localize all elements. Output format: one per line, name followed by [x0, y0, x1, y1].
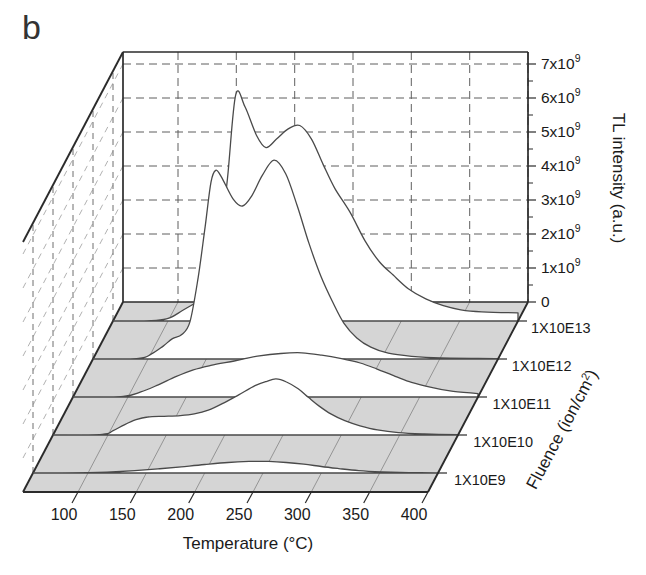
svg-text:1x109: 1x109 — [541, 256, 581, 276]
svg-text:4x109: 4x109 — [541, 154, 581, 174]
svg-text:200: 200 — [167, 506, 194, 523]
svg-text:1X10E10: 1X10E10 — [473, 434, 533, 450]
svg-text:7x109: 7x109 — [541, 52, 581, 72]
svg-text:150: 150 — [109, 506, 136, 523]
svg-text:3x109: 3x109 — [541, 188, 581, 208]
svg-text:0: 0 — [541, 293, 550, 310]
z-axis-title: TL intensity (a.u.) — [608, 113, 628, 244]
svg-text:1X10E11: 1X10E11 — [493, 396, 552, 412]
svg-text:300: 300 — [284, 506, 311, 523]
svg-text:100: 100 — [51, 506, 78, 523]
waterfall-figure: 10015020025030035040001x1092x1093x1094x1… — [0, 0, 646, 575]
y-axis-title: Fluence (ion/cm2) — [522, 366, 602, 493]
svg-text:1X10E9: 1X10E9 — [454, 472, 506, 488]
svg-text:2x109: 2x109 — [541, 222, 581, 242]
svg-text:350: 350 — [342, 506, 369, 523]
waterfall-plot: 10015020025030035040001x1092x1093x1094x1… — [0, 0, 646, 575]
svg-text:400: 400 — [401, 506, 428, 523]
svg-text:5x109: 5x109 — [541, 120, 581, 140]
x-axis-title: Temperature (°C) — [183, 534, 314, 554]
svg-text:250: 250 — [226, 506, 253, 523]
svg-text:1X10E13: 1X10E13 — [531, 320, 591, 336]
panel-label: b — [22, 8, 41, 47]
svg-text:6x109: 6x109 — [541, 86, 581, 106]
svg-text:1X10E12: 1X10E12 — [512, 358, 572, 374]
